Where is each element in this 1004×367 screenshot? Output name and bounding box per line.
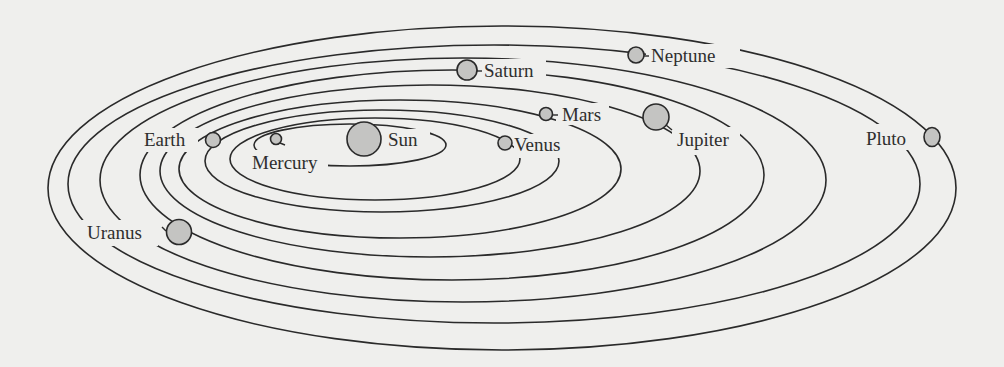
earth-icon — [206, 133, 221, 148]
planet-uranus: Uranus — [87, 220, 192, 245]
uranus-icon — [167, 220, 192, 245]
pluto-label: Pluto — [866, 128, 906, 149]
sun-icon — [347, 122, 381, 156]
jupiter-icon — [643, 104, 669, 130]
saturn-label: Saturn — [484, 60, 534, 81]
venus-label: Venus — [514, 134, 560, 155]
orbit-uranus — [100, 58, 826, 302]
earth-label: Earth — [144, 129, 186, 150]
pluto-icon — [924, 128, 940, 147]
uranus-label: Uranus — [87, 222, 142, 243]
planet-neptune: Neptune — [628, 45, 715, 66]
planet-earth: Earth — [144, 129, 221, 150]
venus-icon — [498, 136, 512, 150]
mars-icon — [540, 108, 553, 121]
orbit-jupiter — [160, 85, 700, 257]
mars-label: Mars — [562, 104, 601, 125]
solar-system-diagram: Sun Mercury Venus Earth Mars Jupiter Sat… — [0, 0, 1004, 367]
planet-mars: Mars — [540, 104, 602, 125]
mercury-label: Mercury — [252, 152, 318, 173]
neptune-icon — [628, 47, 644, 63]
mercury-icon — [271, 134, 282, 145]
jupiter-label: Jupiter — [677, 129, 729, 150]
planet-saturn: Saturn — [457, 60, 534, 81]
sun-label: Sun — [388, 129, 418, 150]
neptune-label: Neptune — [651, 45, 715, 66]
planet-pluto: Pluto — [866, 128, 940, 150]
planet-venus: Venus — [498, 134, 560, 155]
planet-mercury: Mercury — [252, 134, 318, 174]
saturn-icon — [457, 60, 477, 80]
orbit-mars — [179, 100, 621, 238]
